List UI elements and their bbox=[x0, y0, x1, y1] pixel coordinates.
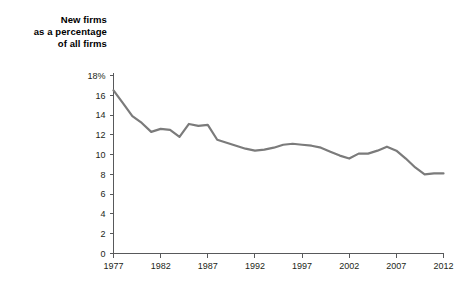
y-axis-tick-label: 2 bbox=[100, 229, 105, 239]
y-axis: 024681012141618% bbox=[87, 71, 113, 259]
x-axis-tick-label: 1997 bbox=[292, 261, 312, 271]
x-axis-tick-label: 2012 bbox=[433, 261, 453, 271]
y-axis-tick-label: 6 bbox=[100, 189, 105, 199]
x-axis-tick-label: 1977 bbox=[103, 261, 123, 271]
x-axis-tick-label: 1992 bbox=[245, 261, 265, 271]
y-axis-tick-label: 12 bbox=[95, 130, 105, 140]
y-axis-tick-label: 16 bbox=[95, 91, 105, 101]
y-axis-tick-label: 14 bbox=[95, 110, 105, 120]
line-chart-plot: 024681012141618% 19771982198719921997200… bbox=[0, 0, 470, 285]
chart-figure: New firms as a percentage of all firms 0… bbox=[0, 0, 470, 285]
x-axis: 19771982198719921997200220072012 bbox=[103, 254, 453, 271]
data-series-new-firms bbox=[114, 90, 444, 174]
y-axis-tick-label: 8 bbox=[100, 170, 105, 180]
x-axis-tick-label: 1987 bbox=[198, 261, 218, 271]
y-axis-tick-label: 0 bbox=[100, 249, 105, 259]
y-axis-tick-label: 4 bbox=[100, 209, 105, 219]
x-axis-tick-label: 1982 bbox=[151, 261, 171, 271]
y-axis-tick-label: 10 bbox=[95, 150, 105, 160]
x-axis-tick-label: 2007 bbox=[386, 261, 406, 271]
y-axis-tick-label: 18% bbox=[87, 71, 105, 81]
x-axis-tick-label: 2002 bbox=[339, 261, 359, 271]
